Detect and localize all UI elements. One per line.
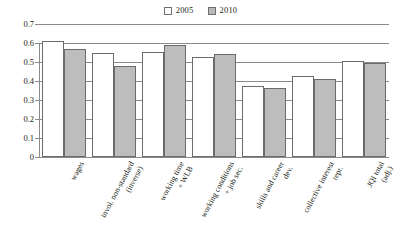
x-category-label: skills and careerdev. — [254, 160, 295, 215]
y-tick-mark — [35, 157, 39, 158]
legend-swatch-2005-icon — [164, 7, 172, 15]
bar-2010-3 — [214, 54, 236, 157]
legend-label-2010: 2010 — [220, 6, 238, 15]
bar-2010-2 — [164, 45, 186, 157]
y-tick-mark — [35, 43, 39, 44]
bar-2005-4 — [242, 86, 264, 157]
x-category-label-line: wages — [69, 160, 87, 182]
y-tick-label: 0.6 — [23, 39, 34, 48]
bar-group — [191, 24, 237, 157]
bar-group — [241, 24, 287, 157]
x-category-label: collective interestrepr. — [301, 160, 344, 219]
bar-group — [41, 24, 87, 157]
bar-2005-5 — [292, 76, 314, 157]
bar-2010-5 — [314, 79, 336, 157]
bar-2005-1 — [92, 53, 114, 157]
bar-2005-0 — [42, 41, 64, 157]
y-tick-mark — [35, 138, 39, 139]
y-tick-mark — [35, 81, 39, 82]
bar-2005-6 — [342, 61, 364, 157]
x-category-label: JQI total(adj.) — [365, 160, 395, 193]
bar-group — [341, 24, 387, 157]
bar-group — [141, 24, 187, 157]
y-tick-mark — [35, 100, 39, 101]
bar-2005-2 — [142, 52, 164, 157]
y-tick-mark — [35, 62, 39, 63]
y-tick-label: 0.1 — [23, 134, 34, 143]
x-axis-baseline — [35, 157, 389, 158]
y-axis-tick-labels: 0.70.60.50.40.30.20.10 — [0, 24, 34, 157]
x-category-label: working time+ WLB — [158, 160, 195, 207]
legend-label-2005: 2005 — [176, 6, 194, 15]
y-tick-mark — [35, 119, 39, 120]
x-category-label: working conditions+ job sec. — [199, 160, 245, 224]
bar-2010-1 — [114, 66, 136, 157]
x-category-label: invol. non-standard(inverse) — [99, 160, 145, 224]
y-tick-label: 0.5 — [23, 58, 34, 67]
y-tick-label: 0 — [30, 153, 34, 162]
bar-2010-4 — [264, 88, 286, 157]
chart-legend: 2005 2010 — [0, 6, 401, 15]
bar-chart: 2005 2010 0.70.60.50.40.30.20.10 wagesin… — [0, 0, 401, 249]
y-tick-label: 0.2 — [23, 115, 34, 124]
x-axis-category-labels: wagesinvol. non-standard(inverse)working… — [39, 160, 389, 249]
bar-2010-6 — [364, 63, 386, 157]
y-tick-mark — [35, 24, 39, 25]
x-category-label: wages — [69, 160, 87, 182]
legend-item-2005: 2005 — [164, 6, 194, 15]
bar-2010-0 — [64, 49, 86, 157]
legend-swatch-2010-icon — [208, 7, 216, 15]
bar-group — [291, 24, 337, 157]
y-tick-label: 0.4 — [23, 77, 34, 86]
y-tick-label: 0.3 — [23, 96, 34, 105]
legend-item-2010: 2010 — [208, 6, 238, 15]
plot-area — [39, 24, 389, 157]
y-tick-label: 0.7 — [23, 20, 34, 29]
bar-groups — [39, 24, 389, 157]
bar-group — [91, 24, 137, 157]
bar-2005-3 — [192, 57, 214, 157]
